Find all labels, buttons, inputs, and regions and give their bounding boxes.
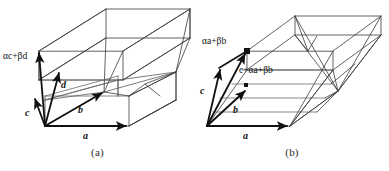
label-vector-b-b: b — [233, 105, 238, 115]
vector-combo-arrow — [39, 53, 45, 126]
caption-b: (b) — [195, 146, 389, 158]
label-vector-c: c — [25, 108, 29, 118]
figure-page: a b c d αc+βd (a) — [0, 0, 389, 171]
figure-b-drawing — [195, 0, 389, 150]
vector-b-arrow-b — [207, 91, 245, 126]
label-vector-d: d — [61, 80, 66, 90]
label-vector-a: a — [83, 131, 88, 141]
figure-panel-a: a b c d αc+βd (a) — [0, 0, 195, 171]
tip-marker-combo — [244, 48, 250, 54]
figure-panel-b: a b c αa+βb c+αa+βb (b) — [195, 0, 389, 171]
label-vector-c-b: c — [200, 86, 204, 96]
label-vector-b: b — [78, 105, 83, 115]
caption-a: (a) — [0, 146, 195, 158]
vector-c-arrow-b — [207, 70, 220, 126]
label-combination-c-plus-alpha-a-beta-b: c+αa+βb — [239, 66, 273, 76]
label-combination-alpha-a-beta-b: αa+βb — [202, 37, 226, 47]
label-combination-alpha-c-beta-d: αc+βd — [3, 52, 27, 62]
tip-marker-sum — [244, 83, 248, 87]
label-vector-a-b: a — [243, 131, 248, 141]
figure-a-drawing — [0, 0, 195, 150]
